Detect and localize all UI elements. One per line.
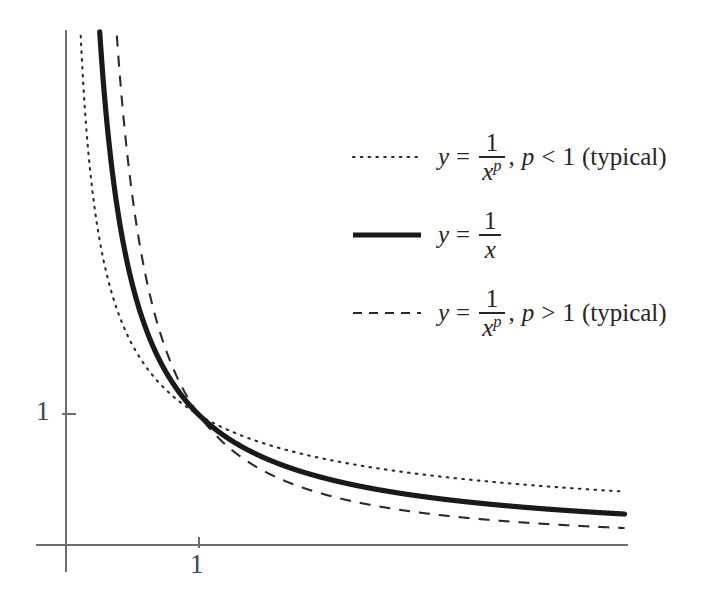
legend-swatch-dotted-icon [352, 147, 422, 167]
legend-entry-p-less-than-1: y = 1 xp , p < 1 (typical) [352, 118, 692, 196]
legend-cond-val-2: 1 [562, 299, 575, 327]
legend-equals-0: = [456, 143, 470, 171]
legend-equals-2: = [456, 299, 470, 327]
legend-cond-var-2: p [522, 299, 535, 327]
legend-den-exponent-2: p [493, 311, 501, 330]
legend-denominator-2: xp [479, 314, 504, 341]
legend-cond-rel-2: > [541, 299, 555, 327]
legend-numerator-1: 1 [481, 208, 500, 235]
x-axis-tick-label-1: 1 [190, 551, 204, 578]
legend-label-p-less-than-1: y = 1 xp , p < 1 (typical) [438, 130, 667, 185]
legend-swatch-solid-icon [352, 225, 422, 245]
legend-denominator-1: x [482, 236, 499, 263]
legend-cond-val-0: 1 [562, 143, 575, 171]
legend-fraction-2: 1 xp [479, 286, 504, 341]
legend-numerator-0: 1 [483, 130, 502, 157]
figure-canvas: 1 1 y = 1 xp , p < 1 (typical) [0, 0, 712, 609]
legend-comma-2: , [509, 299, 515, 327]
legend-y-var-1: y [438, 221, 449, 249]
legend-label-p-greater-than-1: y = 1 xp , p > 1 (typical) [438, 286, 667, 341]
legend-den-exponent-0: p [493, 155, 501, 174]
legend-y-var-0: y [438, 143, 449, 171]
legend-note-2: (typical) [582, 299, 667, 327]
legend-den-base-2: x [482, 314, 493, 341]
legend-swatch-dashed-icon [352, 303, 422, 323]
legend-comma-0: , [509, 143, 515, 171]
legend: y = 1 xp , p < 1 (typical) [352, 118, 692, 352]
legend-den-base-0: x [482, 158, 493, 185]
legend-numerator-2: 1 [483, 286, 502, 313]
legend-entry-one-over-x: y = 1 x [352, 196, 692, 274]
legend-entry-p-greater-than-1: y = 1 xp , p > 1 (typical) [352, 274, 692, 352]
legend-den-base-1: x [485, 236, 496, 263]
legend-label-one-over-x: y = 1 x [438, 208, 503, 263]
legend-cond-var-0: p [522, 143, 535, 171]
legend-note-0: (typical) [582, 143, 667, 171]
legend-cond-rel-0: < [541, 143, 555, 171]
legend-fraction-1: 1 x [479, 208, 501, 263]
y-axis-tick-label-1: 1 [36, 398, 50, 425]
legend-denominator-0: xp [479, 158, 504, 185]
legend-equals-1: = [456, 221, 470, 249]
legend-fraction-0: 1 xp [479, 130, 504, 185]
legend-y-var-2: y [438, 299, 449, 327]
